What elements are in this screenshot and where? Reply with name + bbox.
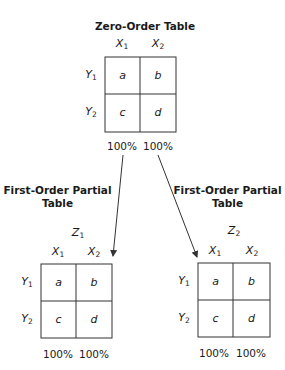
- percent-x1: 100%: [38, 348, 78, 360]
- cell-a: a: [41, 276, 76, 289]
- cell-b: b: [140, 69, 176, 82]
- cell-b: b: [76, 276, 112, 289]
- cell-a: a: [105, 69, 140, 82]
- control-label-z2: Z2: [222, 225, 246, 240]
- cell-d: d: [233, 312, 270, 325]
- cell-d: d: [140, 106, 176, 119]
- percent-x2: 100%: [74, 348, 114, 360]
- control-label-z1: Z1: [66, 227, 90, 242]
- percent-x2: 100%: [138, 140, 178, 152]
- zero-order-title: Zero-Order Table: [80, 20, 210, 33]
- col-label-x1: X1: [46, 246, 70, 261]
- cell-c: c: [41, 313, 76, 326]
- col-label-x2: X2: [240, 245, 264, 260]
- col-label-x1: X1: [203, 245, 227, 260]
- percent-x1: 100%: [102, 140, 142, 152]
- row-label-y1: Y1: [173, 275, 195, 290]
- row-label-y1: Y1: [16, 276, 38, 291]
- row-label-y2: Y2: [16, 313, 38, 328]
- cell-c: c: [198, 312, 233, 325]
- col-label-x1: X1: [110, 38, 134, 53]
- partial-right-title: First-Order Partial Table: [170, 184, 285, 210]
- col-label-x2: X2: [146, 38, 170, 53]
- row-label-y2: Y2: [173, 312, 195, 327]
- cell-c: c: [105, 106, 140, 119]
- percent-x2: 100%: [231, 347, 271, 359]
- row-label-y2: Y2: [80, 106, 102, 121]
- percent-x1: 100%: [194, 347, 234, 359]
- row-label-y1: Y1: [80, 69, 102, 84]
- cell-b: b: [233, 275, 270, 288]
- cell-a: a: [198, 275, 233, 288]
- cell-d: d: [76, 313, 112, 326]
- col-label-x2: X2: [82, 246, 106, 261]
- partial-left-title: First-Order Partial Table: [0, 184, 115, 210]
